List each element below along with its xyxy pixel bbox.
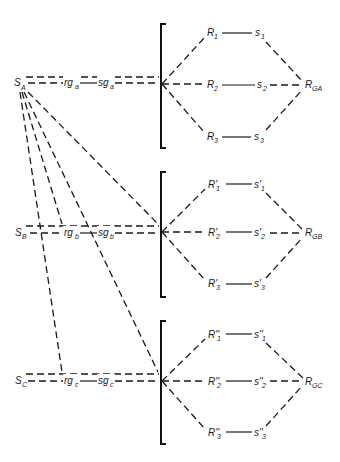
diagonals-from-sa <box>20 92 158 372</box>
svg-text:2: 2 <box>215 233 220 240</box>
diagonal-sa-bracket-c <box>24 92 158 372</box>
svg-text:a: a <box>75 83 79 90</box>
svg-text:c: c <box>75 381 79 388</box>
svg-text:B: B <box>22 233 27 240</box>
link-bracket-r3-c <box>162 381 205 429</box>
source-b-label: S <box>15 227 22 238</box>
svg-text:2: 2 <box>260 233 265 240</box>
svg-text:b: b <box>110 233 114 240</box>
svg-text:3: 3 <box>262 433 266 440</box>
svg-text:3: 3 <box>216 284 220 291</box>
link-s3-target-c <box>266 385 303 426</box>
svg-text:1: 1 <box>262 335 266 342</box>
svg-text:A: A <box>20 84 26 91</box>
svg-text:3: 3 <box>217 433 221 440</box>
labels-c: S C rg c sg c R'' 1 s'' 1 R'' 2 s'' 2 R'… <box>15 329 323 440</box>
diagonal-sa-rgc <box>20 92 62 372</box>
link-bracket-r3-a <box>162 84 205 133</box>
s2-a-label: s <box>257 79 262 90</box>
link-s3-target-a <box>266 89 303 130</box>
s1-a-label: s <box>255 27 260 38</box>
svg-text:GA: GA <box>312 85 322 92</box>
rg-c-label: rg <box>64 375 73 386</box>
svg-text:3: 3 <box>214 137 218 144</box>
link-s3-target-b <box>266 237 303 278</box>
source-a-label: S <box>14 77 21 88</box>
svg-text:1: 1 <box>261 185 265 192</box>
svg-text:1: 1 <box>261 33 265 40</box>
svg-text:C: C <box>22 381 28 388</box>
svg-text:2: 2 <box>261 382 266 389</box>
link-bracket-r3-b <box>162 232 205 280</box>
diagonal-sa-bracket-b <box>28 92 158 224</box>
s3-a-label: s <box>254 131 259 142</box>
svg-text:3: 3 <box>261 284 265 291</box>
svg-text:b: b <box>75 233 79 240</box>
diagonal-sa-rgb <box>22 92 62 224</box>
rg-a-label: rg <box>64 77 73 88</box>
svg-text:c: c <box>110 381 114 388</box>
sg-b-label: sg <box>98 227 109 238</box>
svg-text:GB: GB <box>312 233 322 240</box>
svg-text:3: 3 <box>260 137 264 144</box>
source-c-label: S <box>15 375 22 386</box>
connection-diagram: S A rg a sg a R 1 s 1 R 2 s 2 R 3 s 3 R … <box>0 0 340 462</box>
svg-text:1: 1 <box>216 185 220 192</box>
link-bracket-r1-c <box>162 339 205 381</box>
svg-text:a: a <box>110 83 114 90</box>
link-s1-target-b <box>266 193 303 230</box>
link-bracket-r1-b <box>162 189 205 232</box>
sg-a-label: sg <box>98 77 109 88</box>
sg-c-label: sg <box>98 375 109 386</box>
labels-b: S B rg b sg b R' 1 s' 1 R' 2 s' 2 R' 3 s… <box>15 179 322 291</box>
link-s1-target-c <box>266 343 303 378</box>
svg-text:GC: GC <box>312 382 323 389</box>
rg-b-label: rg <box>64 227 73 238</box>
link-bracket-r1-a <box>162 37 205 84</box>
svg-text:2: 2 <box>213 85 218 92</box>
svg-text:1: 1 <box>217 335 221 342</box>
link-s1-target-a <box>266 42 303 82</box>
svg-text:1: 1 <box>214 33 218 40</box>
svg-text:2: 2 <box>216 382 221 389</box>
svg-text:2: 2 <box>262 85 267 92</box>
